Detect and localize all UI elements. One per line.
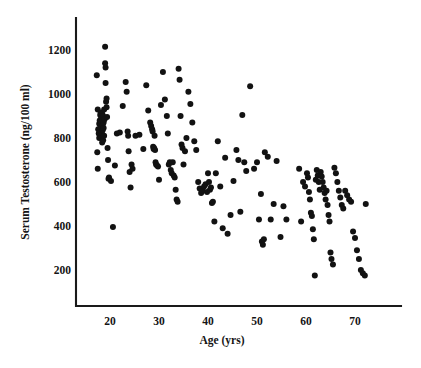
data-point <box>182 148 188 154</box>
data-point <box>228 212 234 218</box>
data-point <box>278 234 284 240</box>
data-point <box>302 183 308 189</box>
data-point <box>261 236 267 242</box>
data-point <box>274 158 280 164</box>
data-point <box>312 273 318 279</box>
data-point <box>309 213 315 219</box>
data-point <box>177 77 183 83</box>
data-point <box>265 154 271 160</box>
data-point <box>117 130 123 136</box>
data-point <box>235 157 241 163</box>
x-tick-label: 30 <box>153 315 165 327</box>
data-point <box>172 175 178 181</box>
scatter-plot-figure: 1200 1000 800 600 400 200 20 30 40 50 60… <box>0 0 421 368</box>
data-point <box>136 132 142 138</box>
data-point <box>187 101 193 107</box>
data-point <box>328 249 334 255</box>
data-point <box>205 170 211 176</box>
data-point <box>211 219 217 225</box>
data-point <box>323 197 329 203</box>
data-point <box>307 197 313 203</box>
data-point <box>328 256 334 262</box>
data-point <box>156 177 162 183</box>
data-point <box>103 65 109 71</box>
data-point <box>120 103 126 109</box>
data-point <box>183 135 189 141</box>
data-point <box>254 159 260 165</box>
data-point <box>260 242 266 248</box>
data-point <box>333 170 339 176</box>
data-point <box>128 185 134 191</box>
data-point <box>206 179 212 185</box>
data-point <box>162 97 168 103</box>
data-point <box>237 209 243 215</box>
data-point <box>175 199 181 205</box>
data-point <box>208 185 214 191</box>
data-point <box>326 212 332 218</box>
data-point <box>348 199 354 205</box>
data-point <box>101 125 107 131</box>
data-point <box>152 147 158 153</box>
data-point <box>170 159 176 165</box>
data-point <box>296 166 302 172</box>
data-point <box>225 231 231 237</box>
data-point <box>233 147 239 153</box>
data-point <box>193 147 199 153</box>
data-point <box>362 273 368 279</box>
data-point <box>311 236 317 242</box>
data-point <box>247 83 253 89</box>
data-point <box>126 148 132 154</box>
data-point <box>310 226 316 232</box>
x-tick-label: 20 <box>104 315 116 327</box>
data-point <box>158 102 164 108</box>
data-point <box>164 113 170 119</box>
data-point <box>336 188 342 194</box>
data-point <box>108 178 114 184</box>
data-point <box>251 166 257 172</box>
data-point <box>243 168 249 174</box>
data-point <box>325 202 331 208</box>
data-point <box>152 133 158 139</box>
data-point <box>102 44 108 50</box>
y-tick-label: 600 <box>54 176 72 188</box>
data-point <box>110 224 116 230</box>
data-point <box>185 89 191 95</box>
data-point <box>327 219 333 225</box>
data-point <box>189 120 195 126</box>
data-point <box>217 183 223 189</box>
data-point <box>94 149 100 155</box>
data-point <box>143 82 149 88</box>
data-point <box>195 179 201 185</box>
data-point <box>124 89 130 95</box>
y-tick-label: 1000 <box>48 88 71 100</box>
data-point <box>176 66 182 72</box>
data-point <box>239 112 245 118</box>
data-point <box>191 138 197 144</box>
data-point <box>125 133 131 139</box>
data-point <box>178 113 184 119</box>
data-point <box>241 159 247 165</box>
data-point <box>320 179 326 185</box>
data-point <box>213 170 219 176</box>
data-point <box>330 262 336 268</box>
data-point <box>210 199 216 205</box>
data-point <box>94 72 100 78</box>
y-tick-label: 400 <box>54 220 72 232</box>
data-point <box>256 216 262 222</box>
data-point <box>165 131 171 137</box>
data-point <box>350 229 356 235</box>
data-point <box>215 138 221 144</box>
data-point <box>105 157 111 163</box>
data-point <box>319 174 325 180</box>
data-point <box>220 225 226 231</box>
data-point <box>354 247 360 253</box>
y-axis-tick-labels: 1200 1000 800 600 400 200 <box>48 44 71 276</box>
data-point <box>130 166 136 172</box>
x-axis-title: Age (yrs) <box>199 334 244 347</box>
data-point <box>324 188 330 194</box>
data-point <box>123 79 129 85</box>
plot-canvas: 1200 1000 800 600 400 200 20 30 40 50 60… <box>0 0 421 368</box>
data-point <box>352 235 358 241</box>
data-point <box>181 161 187 167</box>
data-point <box>222 155 228 161</box>
